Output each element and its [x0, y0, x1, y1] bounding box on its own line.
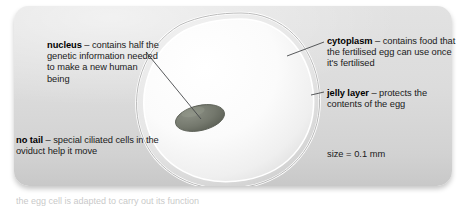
- label-nucleus-term: nucleus: [47, 40, 82, 50]
- label-nucleus-dash: –: [82, 40, 92, 50]
- caption-sliver: the egg cell is adapted to carry out its…: [16, 196, 446, 206]
- label-cytoplasm-dash: –: [373, 36, 383, 46]
- label-size: size = 0.1 mm: [327, 149, 385, 160]
- label-jelly-layer-dash: –: [369, 88, 379, 98]
- label-jelly-layer: jelly layer – protects the contents of t…: [327, 88, 455, 110]
- label-nucleus: nucleus – contains half the genetic info…: [47, 40, 159, 85]
- label-no-tail: no tail – special ciliated cells in the …: [16, 135, 176, 157]
- egg-cell-figure: nucleus – contains half the genetic info…: [0, 0, 468, 206]
- label-jelly-layer-term: jelly layer: [327, 88, 369, 98]
- label-cytoplasm-term: cytoplasm: [327, 36, 373, 46]
- label-no-tail-term: no tail: [16, 135, 43, 145]
- label-cytoplasm: cytoplasm – contains food that the ferti…: [327, 36, 459, 70]
- label-no-tail-dash: –: [43, 135, 53, 145]
